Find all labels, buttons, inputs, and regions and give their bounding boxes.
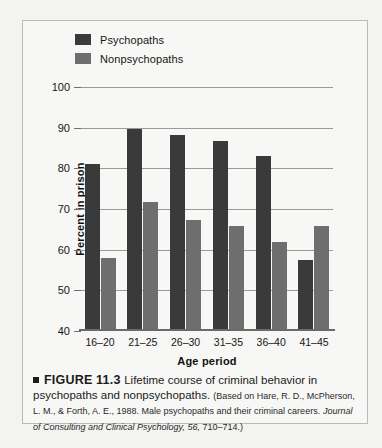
bar-nonpsychopaths bbox=[101, 258, 116, 329]
legend-item-psychopaths: Psychopaths bbox=[75, 31, 183, 48]
bar-groups: 16–2021–2526–3031–3536–4041–45 bbox=[81, 87, 333, 329]
bar-psychopaths bbox=[85, 164, 100, 329]
chart-axes: 405060708090100 16–2021–2526–3031–3536–4… bbox=[81, 87, 333, 331]
legend-item-nonpsychopaths: Nonpsychopaths bbox=[75, 50, 183, 67]
caption-pages: 710–714.) bbox=[202, 422, 243, 432]
y-tick-mark bbox=[74, 290, 81, 291]
y-tick-label: 80 bbox=[58, 162, 70, 174]
bar-nonpsychopaths bbox=[229, 226, 244, 329]
bar-group: 16–20 bbox=[81, 87, 119, 329]
y-tick-label: 70 bbox=[58, 203, 70, 215]
x-tick-label: 16–20 bbox=[85, 336, 114, 348]
caption-figure-number: FIGURE 11.3 bbox=[44, 373, 124, 387]
figure-caption: FIGURE 11.3 Lifetime course of criminal … bbox=[33, 373, 357, 434]
y-tick-mark bbox=[74, 87, 81, 88]
bar-psychopaths bbox=[170, 135, 185, 329]
x-axis-title: Age period bbox=[81, 355, 333, 367]
bar-nonpsychopaths bbox=[143, 202, 158, 329]
y-tick-label: 60 bbox=[58, 244, 70, 256]
y-tick-label: 40 bbox=[58, 325, 70, 337]
bar-group: 26–30 bbox=[167, 87, 205, 329]
bar-group: 41–45 bbox=[295, 87, 333, 329]
figure-page: Psychopaths Nonpsychopaths Percent in pr… bbox=[0, 0, 382, 448]
x-axis-line bbox=[79, 329, 335, 331]
bar-psychopaths bbox=[213, 141, 228, 329]
x-tick-label: 31–35 bbox=[214, 336, 243, 348]
x-tick-label: 21–25 bbox=[128, 336, 157, 348]
x-tick-label: 36–40 bbox=[257, 336, 286, 348]
x-tick-label: 41–45 bbox=[299, 336, 328, 348]
y-tick-mark bbox=[74, 250, 81, 251]
x-tick-label: 26–30 bbox=[171, 336, 200, 348]
legend-swatch-psychopaths bbox=[75, 34, 91, 45]
caption-bullet-icon bbox=[33, 377, 39, 383]
y-tick-mark bbox=[74, 168, 81, 169]
chart-legend: Psychopaths Nonpsychopaths bbox=[75, 31, 183, 69]
bar-nonpsychopaths bbox=[314, 226, 329, 329]
legend-label-psychopaths: Psychopaths bbox=[100, 34, 164, 46]
legend-label-nonpsychopaths: Nonpsychopaths bbox=[100, 53, 183, 65]
legend-swatch-nonpsychopaths bbox=[75, 53, 91, 64]
y-tick-label: 50 bbox=[58, 284, 70, 296]
bar-psychopaths bbox=[127, 129, 142, 329]
bar-psychopaths bbox=[256, 156, 271, 329]
y-tick-mark bbox=[74, 331, 81, 332]
chart-plot-area: Psychopaths Nonpsychopaths Percent in pr… bbox=[23, 21, 369, 351]
bar-group: 31–35 bbox=[209, 87, 247, 329]
y-tick-label: 90 bbox=[58, 122, 70, 134]
y-tick-mark bbox=[74, 209, 81, 210]
bar-nonpsychopaths bbox=[186, 220, 201, 329]
figure-frame: Psychopaths Nonpsychopaths Percent in pr… bbox=[22, 20, 368, 424]
y-tick-mark bbox=[74, 128, 81, 129]
bar-group: 36–40 bbox=[252, 87, 290, 329]
y-tick-label: 100 bbox=[52, 81, 70, 93]
bar-psychopaths bbox=[298, 260, 313, 329]
bar-nonpsychopaths bbox=[272, 242, 287, 329]
bar-group: 21–25 bbox=[124, 87, 162, 329]
